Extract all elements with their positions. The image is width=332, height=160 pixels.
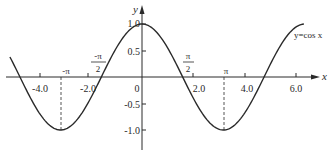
pi-label: π [224, 66, 229, 76]
x-ticks [40, 73, 296, 77]
x-axis-label: x [321, 70, 327, 82]
origin-label: 0 [135, 83, 140, 94]
y-tick-label: 1.0 [128, 18, 141, 29]
y-axis-label: y [132, 3, 138, 15]
x-axis-arrow-icon [311, 75, 320, 80]
x-tick-label: 2.0 [193, 83, 206, 94]
y-axis-arrow-icon [140, 5, 145, 14]
pi-half-denominator: 2 [186, 64, 191, 74]
pi-half-numerator: π [186, 51, 191, 61]
x-tick-label: -4.0 [32, 83, 48, 94]
cosine-chart: -4.0 -2.0 0 2.0 4.0 6.0 1.0 0.5 -0.5 -1.… [0, 0, 332, 160]
y-tick-label: -1.0 [124, 125, 140, 136]
y-tick-label: -0.5 [124, 99, 140, 110]
x-tick-label: 4.0 [241, 83, 254, 94]
x-tick-label: 6.0 [290, 83, 303, 94]
neg-pi-half-numerator: -π [94, 51, 102, 61]
neg-pi-half-denominator: 2 [96, 64, 101, 74]
y-tick-label: 0.5 [128, 46, 141, 57]
x-tick-label: -2.0 [80, 83, 96, 94]
curve-label: y=cos x [294, 30, 323, 40]
neg-pi-label: -π [62, 66, 70, 76]
